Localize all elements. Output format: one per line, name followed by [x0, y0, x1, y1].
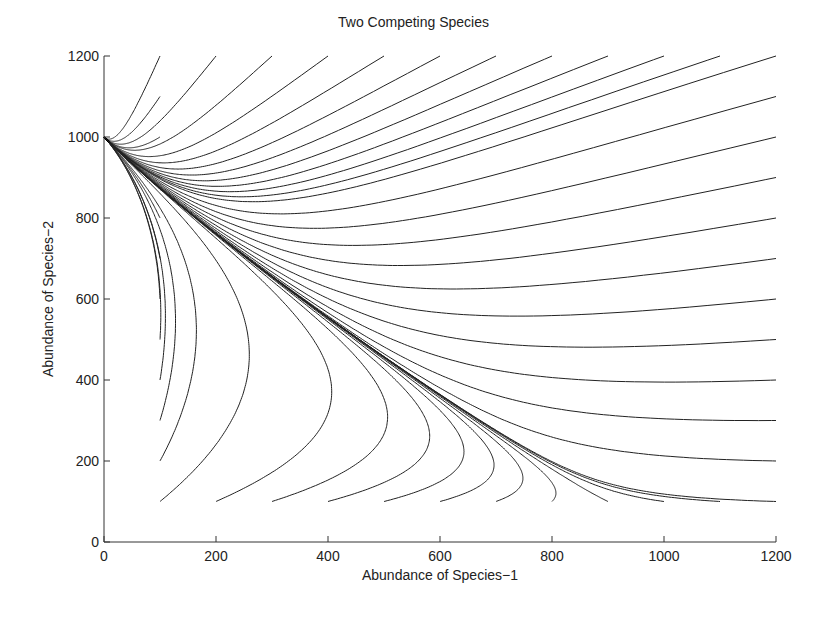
y-tick-label: 600 [76, 291, 100, 307]
x-tick-label: 400 [316, 548, 340, 564]
trajectory-line [104, 56, 440, 169]
trajectory-line [104, 137, 776, 265]
trajectory-line [104, 56, 496, 175]
x-tick-label: 1000 [648, 548, 679, 564]
trajectory-line [104, 137, 776, 289]
chart-title: Two Competing Species [0, 14, 827, 30]
trajectory-line [104, 137, 776, 228]
trajectory-line [104, 56, 160, 139]
trajectory-line [104, 137, 776, 347]
trajectory-line [104, 137, 332, 501]
trajectory-line [104, 56, 720, 197]
x-tick-label: 1200 [760, 548, 791, 564]
y-tick-label: 1000 [68, 129, 99, 145]
x-axis-label: Abundance of Species−1 [104, 567, 776, 583]
trajectory-line [104, 137, 776, 501]
x-tick-label: 0 [100, 548, 108, 564]
trajectory-line [104, 56, 664, 192]
trajectory-line [104, 137, 196, 461]
trajectory-line [104, 137, 430, 501]
trajectory-line [104, 56, 328, 157]
y-tick-label: 200 [76, 453, 100, 469]
y-tick-label: 800 [76, 210, 100, 226]
x-tick-label: 800 [540, 548, 564, 564]
phase-plot: 0200400600800100012000200400600800100012… [0, 0, 827, 620]
trajectory-line [104, 56, 384, 163]
trajectory-line [104, 137, 175, 420]
trajectory-line [104, 137, 160, 258]
trajectory-line [104, 137, 776, 420]
trajectory-line [104, 56, 552, 181]
y-axis-label: Abundance of Species−2 [40, 221, 56, 377]
trajectory-curves [104, 56, 776, 502]
y-tick-label: 0 [91, 534, 99, 550]
trajectory-line [104, 56, 776, 202]
trajectory-line [104, 97, 160, 142]
x-tick-label: 200 [204, 548, 228, 564]
y-tick-label: 400 [76, 372, 100, 388]
y-tick-label: 1200 [68, 48, 99, 64]
trajectory-line [104, 137, 387, 501]
x-tick-label: 600 [428, 548, 452, 564]
